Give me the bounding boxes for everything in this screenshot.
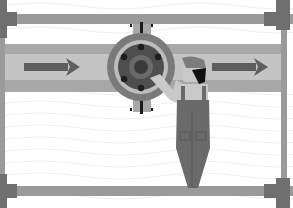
- bolt: [121, 76, 127, 82]
- bolt: [155, 54, 161, 60]
- frame-bottom-bar: [0, 186, 293, 196]
- bolt: [121, 54, 127, 60]
- frame-right-post: [281, 0, 287, 208]
- bolt: [138, 85, 144, 91]
- worker-overalls: [176, 100, 210, 188]
- illustration-canvas: [0, 0, 293, 208]
- bolt: [138, 44, 144, 50]
- frame-top-bar: [0, 14, 293, 24]
- pipe-maintenance-illustration: [0, 0, 293, 208]
